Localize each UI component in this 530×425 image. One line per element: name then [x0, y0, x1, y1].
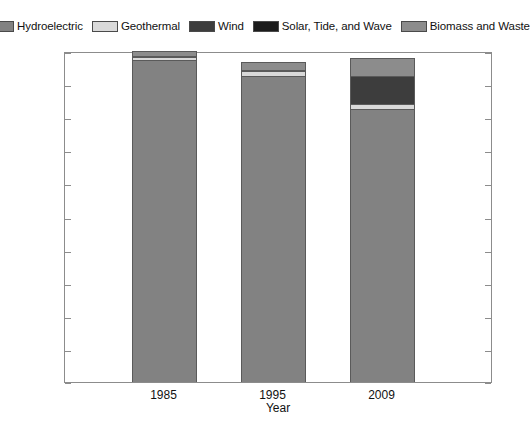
legend-swatch-geothermal — [92, 21, 118, 32]
plot-frame — [64, 52, 492, 383]
y-tick-right-0 — [485, 383, 491, 384]
y-axis-title: Percent — [6, 0, 22, 68]
y-tick-10 — [65, 351, 71, 352]
bar-1995[interactable] — [241, 51, 306, 382]
y-tick-right-70 — [485, 152, 491, 153]
y-tick-right-80 — [485, 119, 491, 120]
y-tick-right-40 — [485, 252, 491, 253]
legend-label-wind: Wind — [218, 20, 244, 32]
legend-label-geothermal: Geothermal — [121, 20, 180, 32]
y-tick-20 — [65, 318, 71, 319]
y-tick-right-60 — [485, 185, 491, 186]
y-tick-50 — [65, 219, 71, 220]
legend-swatch-biomass-and-waste — [401, 21, 427, 32]
legend-label-solar-tide-wave: Solar, Tide, and Wave — [282, 20, 392, 32]
y-tick-right-90 — [485, 86, 491, 87]
y-tick-100 — [65, 53, 71, 54]
legend-swatch-solar-tide-wave — [253, 21, 279, 32]
legend-label-hydroelectric: Hydroelectric — [17, 20, 83, 32]
bar-1985[interactable] — [132, 51, 197, 382]
y-tick-70 — [65, 152, 71, 153]
y-tick-right-100 — [485, 53, 491, 54]
y-tick-right-50 — [485, 219, 491, 220]
bar-segment-2009-biomass-and-waste[interactable] — [350, 58, 415, 76]
y-tick-90 — [65, 86, 71, 87]
x-axis-title: Year — [64, 401, 492, 415]
y-tick-right-30 — [485, 285, 491, 286]
legend-item-solar-tide-wave[interactable]: Solar, Tide, and Wave — [253, 20, 392, 32]
legend-label-biomass-and-waste: Biomass and Waste — [430, 20, 530, 32]
bar-segment-2009-hydroelectric[interactable] — [350, 109, 415, 382]
y-tick-80 — [65, 119, 71, 120]
x-tick-label-1995: 1995 — [233, 388, 313, 402]
chart-legend: Hydroelectric Geothermal Wind Solar, Tid… — [0, 16, 518, 36]
bar-2009[interactable] — [350, 51, 415, 382]
y-tick-0 — [65, 383, 71, 384]
legend-item-biomass-and-waste[interactable]: Biomass and Waste — [401, 20, 530, 32]
x-tick-label-2009: 2009 — [342, 388, 422, 402]
y-tick-right-10 — [485, 351, 491, 352]
y-tick-30 — [65, 285, 71, 286]
bar-segment-1995-biomass-and-waste[interactable] — [241, 62, 306, 70]
plot-area — [65, 53, 491, 382]
y-tick-60 — [65, 185, 71, 186]
y-tick-right-20 — [485, 318, 491, 319]
bar-segment-2009-wind[interactable] — [350, 76, 415, 104]
legend-swatch-wind — [189, 21, 215, 32]
bar-segment-1995-hydroelectric[interactable] — [241, 76, 306, 383]
x-tick-label-1985: 1985 — [124, 388, 204, 402]
bar-segment-1985-hydroelectric[interactable] — [132, 60, 197, 382]
legend-item-geothermal[interactable]: Geothermal — [92, 20, 180, 32]
y-axis-title-text: Percent — [6, 0, 22, 68]
y-tick-40 — [65, 252, 71, 253]
legend-item-wind[interactable]: Wind — [189, 20, 244, 32]
